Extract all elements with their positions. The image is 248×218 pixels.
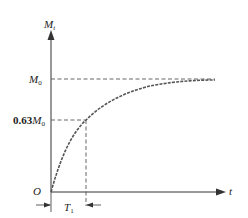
origin-label: O	[33, 185, 41, 197]
right-arrow-icon	[44, 203, 51, 208]
time-constant-label: T1	[64, 201, 74, 215]
response-diagram: Mt t O M0 0.63M0 T1	[0, 0, 248, 218]
response-curve	[51, 80, 215, 192]
x-axis-arrow-icon	[216, 189, 226, 196]
x-axis	[51, 189, 226, 196]
y-axis-label: Mt	[43, 18, 56, 32]
left-arrow-icon	[86, 203, 93, 208]
time-constant-level-label: 0.63M0	[13, 114, 45, 128]
final-value-label: M0	[28, 73, 42, 87]
x-axis-label: t	[229, 185, 233, 197]
y-axis	[48, 30, 55, 192]
